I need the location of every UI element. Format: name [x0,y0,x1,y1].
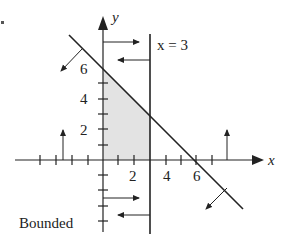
x-tick-label-4: 4 [163,168,171,184]
x-tick-label-6: 6 [193,168,201,184]
x-tick-label-2: 2 [129,168,137,184]
shaded-region [103,68,150,160]
y-tick-label-2: 2 [80,122,88,138]
y-axis-arrow-icon [98,16,108,30]
x-axis-label: x [267,152,275,168]
y-tick-label-6: 6 [80,61,88,77]
feasible-region-diagram: y x x = 3 6 4 2 2 4 6 Bounded [0,0,281,234]
line-label-x-3: x = 3 [157,37,188,53]
line-x-plus-y-6 [69,35,243,209]
stray-mark [1,21,4,24]
x-axis-arrow-icon [252,155,264,165]
direction-arrow-icon [61,49,82,71]
direction-arrow-icon [206,188,227,209]
bounded-annotation: Bounded [19,215,74,231]
y-axis-label: y [110,9,119,25]
y-tick-label-4: 4 [80,91,88,107]
